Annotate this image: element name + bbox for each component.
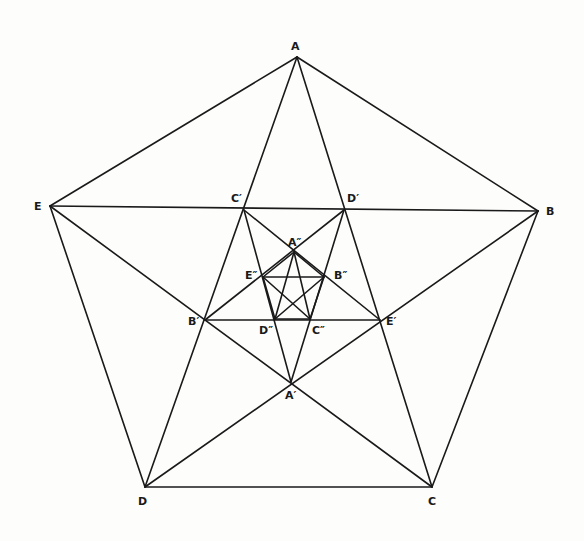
pentagon-diagram: A B C D E A′ B′ C′ D′ E′ A″ B″ C″ D″ E″ <box>0 0 584 541</box>
label-C: C <box>428 496 436 507</box>
outer-pentagram-diagonal <box>145 57 297 487</box>
outer-pentagon-edge <box>50 57 297 206</box>
label-A-double-prime: A″ <box>288 237 301 248</box>
label-E: E <box>34 201 42 212</box>
outer-pentagram-diagonal <box>50 206 432 487</box>
outer-pentagon-edge <box>432 211 538 487</box>
innermost-pentagon-edge <box>263 252 294 277</box>
label-A: A <box>291 41 300 52</box>
label-D-prime: D′ <box>347 193 359 204</box>
label-C-prime: C′ <box>231 193 242 204</box>
label-B-prime: B′ <box>188 316 199 327</box>
label-E-double-prime: E″ <box>245 270 257 281</box>
label-A-prime: A′ <box>285 390 296 401</box>
outer-pentagram-diagonal <box>50 206 538 211</box>
outer-pentagon-edge <box>297 57 538 211</box>
outer-pentagram-diagonal <box>145 211 538 487</box>
label-B-double-prime: B″ <box>334 270 347 281</box>
outer-pentagon-edge <box>50 206 145 487</box>
diagram-lines <box>0 0 584 541</box>
label-D: D <box>138 496 147 507</box>
inner-pentagram-diagonal <box>205 210 344 320</box>
label-D-double-prime: D″ <box>259 325 273 336</box>
inner-pentagram-diagonal <box>244 210 380 320</box>
label-B: B <box>546 206 554 217</box>
label-E-prime: E′ <box>386 316 396 327</box>
label-C-double-prime: C″ <box>312 325 325 336</box>
innermost-pentagram-diagonal <box>263 277 310 319</box>
